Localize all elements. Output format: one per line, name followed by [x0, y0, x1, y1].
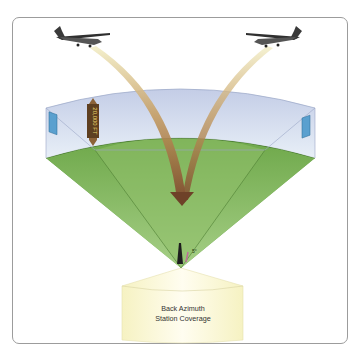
right-azimuth-badge [302, 115, 310, 138]
right-aircraft-icon [246, 26, 302, 48]
left-azimuth-badge [49, 112, 57, 135]
altitude-label: 20,000 FT [92, 107, 98, 135]
coverage-label-line2: Station Coverage [122, 314, 244, 324]
left-aircraft-icon [54, 26, 110, 48]
glide-angle-label: 5° [192, 248, 197, 254]
coverage-label-line1: Back Azimuth [122, 304, 244, 314]
